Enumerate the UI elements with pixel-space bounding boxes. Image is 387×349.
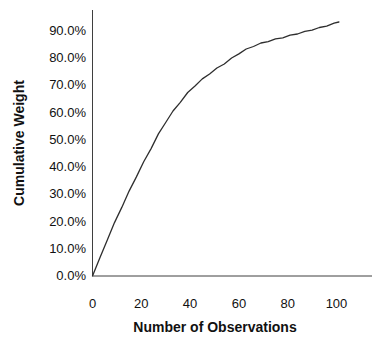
y-tick-label: 80.0% [0,51,86,65]
y-tick-label: 30.0% [0,187,86,201]
y-tick-label: 50.0% [0,133,86,147]
x-tick-label: 0 [71,297,115,311]
y-tick-label: 40.0% [0,160,86,174]
y-tick-label: 20.0% [0,215,86,229]
cumulative-weight-curve [93,22,339,276]
x-tick-label: 80 [266,297,310,311]
y-tick-label: 60.0% [0,106,86,120]
y-tick-label: 10.0% [0,242,86,256]
x-tick-label: 60 [217,297,261,311]
chart-container: Cumulative Weight 0.0%10.0%20.0%30.0%40.… [0,0,387,349]
y-tick-label: 70.0% [0,78,86,92]
y-tick-label: 90.0% [0,24,86,38]
x-tick-label: 100 [315,297,359,311]
y-tick-label: 0.0% [0,269,86,283]
x-tick-label: 40 [168,297,212,311]
x-tick-label: 20 [119,297,163,311]
x-axis-title: Number of Observations [133,319,296,335]
